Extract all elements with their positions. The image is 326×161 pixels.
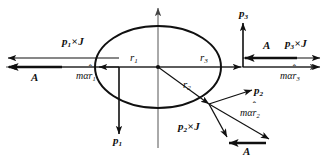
- radius-vectors-group: [99, 65, 241, 104]
- label-p1-sub: 1: [119, 140, 123, 148]
- label-r2-sub: 2: [187, 84, 191, 92]
- label-ma-r3-sub: 3: [296, 75, 299, 82]
- point3-vectors-group: [243, 23, 320, 67]
- label-A-right: A: [263, 40, 270, 51]
- label-p1-cross-J: p1×J: [62, 36, 84, 47]
- label-p1-cross-J-J: J: [78, 35, 84, 47]
- label-p3-sub: 3: [245, 13, 249, 21]
- label-p2-cross-J-J: J: [194, 120, 200, 132]
- label-p1: p1: [113, 135, 122, 146]
- label-r3-sub: 3: [204, 57, 208, 65]
- point1-vectors-group: [8, 58, 119, 134]
- label-ma-r2: mαˆr2: [240, 108, 260, 118]
- p2-arrow: [209, 90, 252, 104]
- origin-point: [156, 65, 160, 69]
- label-p1-cross-J-p: p: [62, 35, 68, 47]
- diagram-canvas: [0, 0, 326, 161]
- label-p3-cross-J-J: J: [301, 37, 307, 49]
- label-r1: r1: [130, 52, 138, 63]
- label-ma-r1-hat: ˆ: [89, 65, 92, 75]
- label-p3-cross-J: p3×J: [285, 38, 307, 49]
- label-p2-cross-J-sub: 2: [184, 126, 188, 134]
- label-p1-p: p: [113, 134, 119, 146]
- label-p2: p2: [254, 85, 263, 96]
- vector-diagram-figure: p1×J A mαˆr1 r1 r3 r2 p1 p3 A p3×J mαˆr3…: [0, 0, 326, 161]
- label-A-bottom: A: [243, 146, 250, 157]
- label-ma-r2-sub: 2: [256, 112, 259, 119]
- label-p2-cross-J: p2×J: [178, 121, 200, 132]
- label-p2-cross-J-p: p: [178, 120, 184, 132]
- label-p3-cross-J-sub: 3: [291, 43, 295, 51]
- label-p3: p3: [239, 8, 248, 19]
- label-ma-r1: mαˆr1: [76, 71, 96, 81]
- label-p3-p: p: [239, 7, 245, 19]
- label-p2-sub: 2: [260, 90, 264, 98]
- label-p3-cross-J-p: p: [285, 37, 291, 49]
- label-r3: r3: [200, 52, 208, 63]
- label-ma-r3-hat: ˆ: [293, 65, 296, 75]
- axes-group: [6, 8, 318, 148]
- label-ma-r2-hat: ˆ: [253, 102, 256, 112]
- label-ma-r3: mαˆr3: [280, 71, 300, 81]
- label-p2-p: p: [254, 84, 260, 96]
- label-ma-r1-sub: 1: [92, 75, 95, 82]
- label-A-left: A: [31, 72, 38, 83]
- label-p1-cross-J-sub: 1: [68, 41, 72, 49]
- label-r2: r2: [183, 79, 191, 90]
- label-r1-sub: 1: [134, 57, 138, 65]
